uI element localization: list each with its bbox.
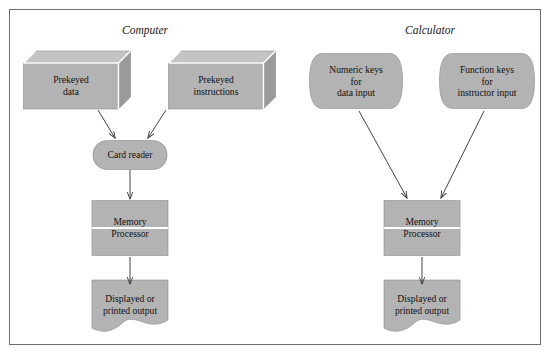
node-computer-memory-processor — [92, 201, 168, 256]
node-computer-card-reader — [93, 141, 167, 170]
cube-front-face — [24, 63, 119, 109]
panel-title-calculator: Calculator — [405, 24, 455, 36]
node-calculator-memory-processor — [384, 201, 460, 256]
node-calculator-function-keys — [440, 54, 535, 109]
node-computer-prekeyed-data — [24, 51, 131, 109]
cube-top-face — [169, 51, 276, 63]
stadium-shape — [93, 141, 167, 170]
cube-top-face — [24, 51, 131, 63]
figure-root: ComputerPrekeyed dataPrekeyed instructio… — [0, 0, 552, 363]
node-calculator-output — [384, 280, 460, 331]
diagram-canvas — [0, 0, 552, 363]
keypad-shape — [310, 54, 403, 109]
arrow-calculator-numeric-to-memory — [359, 111, 407, 198]
document-shape — [384, 280, 460, 331]
cube-front-face — [169, 63, 264, 109]
panel-title-computer: Computer — [122, 24, 168, 36]
arrow-calculator-function-to-memory — [441, 111, 484, 198]
keypad-shape — [440, 54, 535, 109]
arrow-computer-data-to-reader — [98, 110, 115, 138]
arrow-computer-instructions-to-reader — [148, 110, 166, 138]
node-computer-output — [92, 280, 168, 331]
document-shape — [92, 280, 168, 331]
node-computer-prekeyed-instructions — [169, 51, 276, 109]
node-calculator-numeric-keys — [310, 54, 403, 109]
